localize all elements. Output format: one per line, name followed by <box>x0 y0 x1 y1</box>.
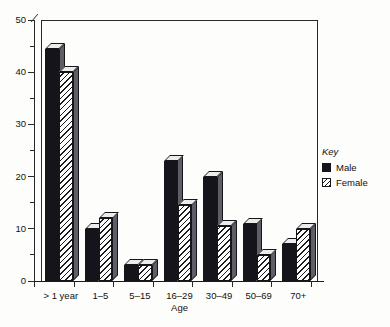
bar-female-3 <box>178 205 192 281</box>
legend-item-male: Male <box>322 162 386 173</box>
diagonal-hatch-swatch-icon <box>322 178 331 187</box>
bar-female-1 <box>99 218 113 281</box>
bar-female-4 <box>217 226 231 281</box>
bar-female-5 <box>257 255 271 281</box>
x-axis-tick-label: 70+ <box>278 290 318 301</box>
legend-title: Key <box>322 146 386 158</box>
bar-female-0 <box>59 72 73 281</box>
legend-label-male: Male <box>336 162 357 173</box>
x-axis-tick-label: 16–29 <box>160 290 200 301</box>
bar-male-2 <box>124 265 138 281</box>
solid-black-swatch-icon <box>322 163 331 172</box>
bar-male-1 <box>85 229 99 281</box>
x-axis-tick-label: 5–15 <box>120 290 160 301</box>
bar-side-face-female-1 <box>112 212 118 281</box>
bar-female-2 <box>138 265 152 281</box>
x-axis-tick-label: > 1 year <box>41 290 81 301</box>
bar-side-face-female-3 <box>191 199 197 281</box>
bar-chart: 01020304050 > 1 year1–55–1516–2930–4950–… <box>0 0 390 327</box>
bar-female-6 <box>296 229 310 281</box>
x-axis-tick-label: 50–69 <box>239 290 279 301</box>
legend-item-female: Female <box>322 177 386 188</box>
legend: Key Male Female <box>322 146 386 188</box>
legend-label-female: Female <box>336 177 368 188</box>
bar-side-face-female-4 <box>231 220 237 281</box>
bar-side-face-female-6 <box>310 223 316 281</box>
x-axis-title: Age <box>140 302 220 313</box>
bar-male-0 <box>45 49 59 281</box>
bar-male-4 <box>203 177 217 281</box>
bar-male-3 <box>164 161 178 281</box>
x-axis-tick-label: 1–5 <box>81 290 121 301</box>
x-axis-baseline <box>34 281 324 282</box>
bar-male-6 <box>282 244 296 281</box>
x-axis-tick-label: 30–49 <box>199 290 239 301</box>
bar-side-face-female-0 <box>73 66 79 281</box>
bar-male-5 <box>243 224 257 281</box>
